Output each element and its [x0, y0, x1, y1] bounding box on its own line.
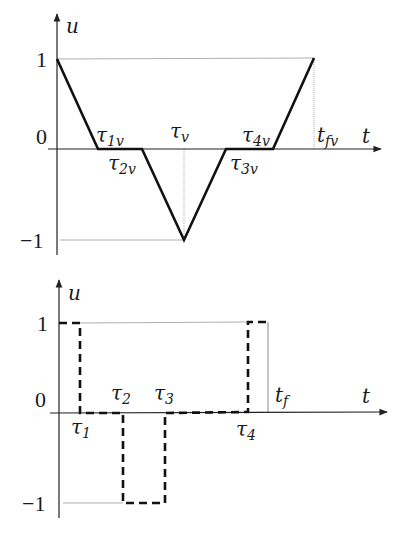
- bottom-tick-0: 0: [35, 387, 46, 412]
- bottom-label-tau2: τ2: [111, 381, 131, 407]
- top-plot: u t 1 0 −1 τ1v τ2v τv τ3v τ4v tfv: [20, 14, 381, 255]
- control-profile-diagram: u t 1 0 −1 τ1v τ2v τv τ3v τ4v tfv u t 1 …: [0, 0, 404, 543]
- top-tick-1: 1: [36, 47, 47, 72]
- bottom-x-axis-label: t: [362, 384, 371, 408]
- bottom-label-tau3: τ3: [154, 381, 174, 407]
- top-label-tau2v: τ2v: [108, 151, 136, 177]
- top-guide-u1: [57, 58, 314, 59]
- bottom-y-axis-label: u: [68, 281, 81, 305]
- top-label-tau1v: τ1v: [96, 123, 124, 149]
- top-label-tau3v: τ3v: [230, 151, 258, 177]
- bottom-label-tf: tf: [275, 383, 291, 409]
- top-label-tauv: τv: [170, 119, 189, 145]
- top-tick-m1: −1: [20, 228, 43, 253]
- bottom-guide-u1: [80, 322, 248, 323]
- bottom-plot: u t 1 0 −1 τ1 τ2 τ3 τ4 tf: [22, 280, 387, 518]
- bottom-label-tau1: τ1: [71, 415, 91, 441]
- top-label-tfv: tfv: [317, 123, 338, 149]
- top-y-axis-label: u: [66, 14, 79, 38]
- bottom-tick-m1: −1: [22, 491, 45, 516]
- bottom-label-tau4: τ4: [236, 417, 256, 443]
- bottom-tick-1: 1: [37, 311, 48, 336]
- top-x-axis-label: t: [362, 124, 371, 148]
- top-tick-0: 0: [36, 124, 47, 149]
- top-label-tau4v: τ4v: [242, 123, 270, 149]
